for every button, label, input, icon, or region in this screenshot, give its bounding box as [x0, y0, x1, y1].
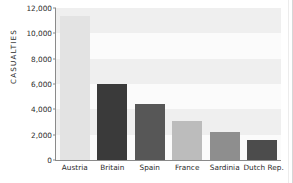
bar [135, 104, 165, 160]
page-edge-line-secondary [288, 0, 289, 183]
y-axis-tick-label: 6,000 [16, 80, 52, 89]
x-axis-tick-label: Britain [94, 163, 132, 172]
grid-band [56, 59, 281, 84]
x-axis-line [55, 160, 281, 161]
bar [210, 132, 240, 161]
bar [172, 121, 202, 160]
bar [247, 140, 277, 160]
x-axis-tick-label: France [169, 163, 207, 172]
y-axis-tick-label: 2,000 [16, 130, 52, 139]
grid-band [56, 33, 281, 58]
x-axis-tick-label: Sardinia [206, 163, 244, 172]
y-axis-line [55, 8, 56, 160]
bar-chart: CASUALTIES 02,0004,0006,0008,00010,00012… [0, 0, 293, 183]
y-axis-tick-labels: 02,0004,0006,0008,00010,00012,000 [16, 8, 52, 160]
x-axis-tick-labels: AustriaBritainSpainFranceSardiniaDutch R… [56, 163, 281, 179]
x-axis-tick-label: Dutch Rep. [244, 163, 282, 172]
x-axis-tick-label: Spain [131, 163, 169, 172]
page-edge-line [292, 0, 293, 183]
y-axis-tick-label: 0 [16, 156, 52, 165]
bar [60, 16, 90, 160]
y-axis-tick-label: 12,000 [16, 4, 52, 13]
plot-area [56, 8, 281, 160]
y-axis-tick-label: 8,000 [16, 54, 52, 63]
y-axis-tick-label: 10,000 [16, 29, 52, 38]
y-axis-tick-label: 4,000 [16, 105, 52, 114]
grid-band [56, 8, 281, 33]
grid-band [56, 84, 281, 109]
bar [97, 84, 127, 160]
x-axis-tick-label: Austria [56, 163, 94, 172]
grid-band [56, 109, 281, 134]
